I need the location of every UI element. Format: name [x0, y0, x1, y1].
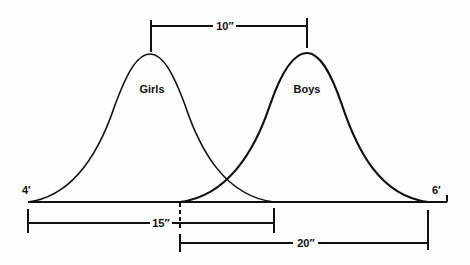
- girls-range-dimension: 15′′: [28, 208, 274, 233]
- boys-range-dimension: 20′′: [180, 210, 428, 252]
- boys-range-label: 20′′: [297, 237, 315, 249]
- axis-label-right: 6′: [432, 184, 441, 196]
- diagram-canvas: Girls Boys 4′ 6′ 10′′ 15′′ 20′′: [0, 0, 470, 265]
- boys-label: Boys: [294, 83, 321, 95]
- height-distribution-diagram: Girls Boys 4′ 6′ 10′′ 15′′ 20′′: [0, 0, 470, 265]
- girls-label: Girls: [139, 83, 164, 95]
- peak-difference-label: 10′′: [216, 20, 234, 32]
- girls-curve: [28, 54, 274, 202]
- girls-range-label: 15′′: [152, 217, 170, 229]
- boys-curve: [180, 53, 428, 202]
- axis-label-left: 4′: [22, 184, 31, 196]
- peak-difference-dimension: 10′′: [151, 18, 307, 52]
